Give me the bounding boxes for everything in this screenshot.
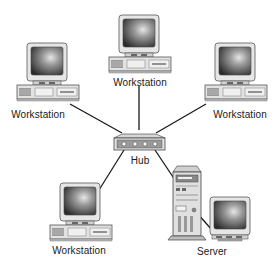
network-diagram: Workstation Workstation Workstation Work… [0, 0, 278, 270]
link-hub-ws-right [156, 104, 206, 133]
link-hub-server [155, 150, 175, 180]
workstation-left [17, 43, 79, 101]
workstation-bottom [50, 183, 112, 241]
server-monitor [210, 197, 250, 241]
server-tower [168, 166, 206, 240]
label-hub: Hub [131, 155, 150, 166]
label-workstation-bottom: Workstation [52, 245, 106, 256]
workstation-top [109, 15, 171, 73]
link-hub-ws-left [70, 104, 122, 133]
link-hub-ws-bottom [99, 150, 124, 190]
label-server: Server [197, 246, 227, 257]
diagram-graphics [0, 0, 278, 270]
hub-device [114, 134, 165, 150]
workstation-right [205, 43, 267, 101]
label-workstation-right: Workstation [213, 109, 267, 120]
label-workstation-top: Workstation [113, 77, 167, 88]
label-workstation-left: Workstation [11, 109, 65, 120]
